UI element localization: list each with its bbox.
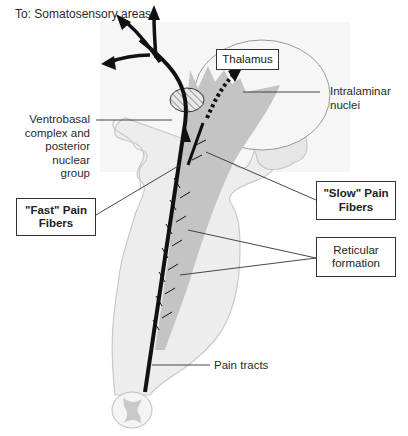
pain-tracts-label: Pain tracts xyxy=(214,359,268,373)
ventrobasal-line-4: nuclear xyxy=(8,154,90,168)
thalamus-label: Thalamus xyxy=(216,49,279,70)
fast-fibers-line-1: "Fast" Pain xyxy=(25,204,87,218)
thalamus-text: Thalamus xyxy=(222,53,273,67)
ventrobasal-line-5: group xyxy=(8,167,90,181)
ventrobasal-line-3: posterior xyxy=(8,140,90,154)
reticular-line-1: Reticular xyxy=(333,244,378,258)
title-somatosensory: To: Somatosensory areas xyxy=(15,8,151,22)
fast-fibers-line-2: Fibers xyxy=(39,217,74,231)
slow-fibers-line-1: "Slow" Pain xyxy=(323,187,388,201)
ventrobasal-label: Ventrobasal complex and posterior nuclea… xyxy=(8,113,90,181)
intralaminar-line-1: Intralaminar xyxy=(330,85,391,99)
intralaminar-line-2: nuclei xyxy=(330,99,391,113)
ventrobasal-line-1: Ventrobasal xyxy=(8,113,90,127)
fiber-branch-2 xyxy=(154,16,156,58)
intralaminar-label: Intralaminar nuclei xyxy=(330,85,391,112)
fast-fibers-box: "Fast" Pain Fibers xyxy=(16,198,96,236)
slow-fibers-line-2: Fibers xyxy=(339,201,374,215)
reticular-line-2: formation xyxy=(332,257,380,271)
reticular-box: Reticular formation xyxy=(316,237,396,277)
ventrobasal-line-2: complex and xyxy=(8,127,90,141)
slow-fibers-box: "Slow" Pain Fibers xyxy=(316,181,396,220)
